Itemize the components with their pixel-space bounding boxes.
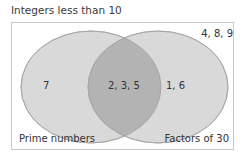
- set-a-only-elements: 7: [43, 80, 49, 91]
- set-a-label: Prime numbers: [19, 133, 95, 144]
- set-b-label: Factors of 30: [164, 133, 229, 144]
- intersection-elements: 2, 3, 5: [108, 80, 140, 91]
- set-b-only-elements: 1, 6: [166, 80, 185, 91]
- outside-elements: 4, 8, 9: [201, 28, 233, 39]
